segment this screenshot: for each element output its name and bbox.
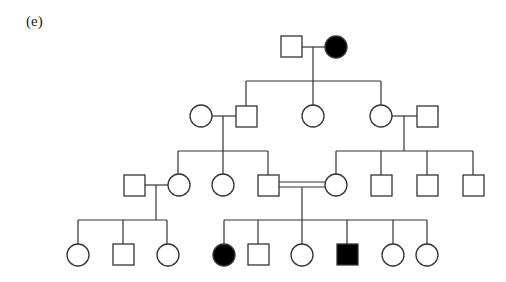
female-unaffected-II-4 <box>370 105 392 127</box>
male-affected-IV-7 <box>337 244 358 265</box>
pedigree-chart <box>0 0 506 282</box>
female-unaffected-III-2 <box>168 174 190 196</box>
female-unaffected-IV-1 <box>67 244 89 266</box>
pedigree-lines <box>78 47 473 244</box>
male-unaffected-III-4 <box>258 175 279 196</box>
generation-IV <box>67 244 438 266</box>
female-unaffected-II-3 <box>302 105 324 127</box>
female-affected-IV-4 <box>213 244 235 266</box>
female-unaffected-IV-3 <box>157 244 179 266</box>
male-unaffected-III-6 <box>371 175 392 196</box>
male-unaffected-IV-2 <box>113 244 134 265</box>
male-unaffected-III-8 <box>463 175 484 196</box>
male-unaffected-III-1 <box>124 175 145 196</box>
male-unaffected-IV-5 <box>248 244 269 265</box>
female-unaffected-III-3 <box>212 174 234 196</box>
female-unaffected-IV-9 <box>416 244 438 266</box>
male-unaffected-II-2 <box>236 106 257 127</box>
pedigree-figure: (e) <box>0 0 506 282</box>
female-affected-I-2 <box>325 36 347 58</box>
male-unaffected-I-1 <box>281 36 302 57</box>
male-unaffected-II-5 <box>417 106 438 127</box>
female-unaffected-IV-6 <box>291 244 313 266</box>
female-unaffected-IV-8 <box>382 244 404 266</box>
male-unaffected-III-7 <box>417 175 438 196</box>
female-unaffected-II-1 <box>190 105 212 127</box>
female-unaffected-III-5 <box>325 174 347 196</box>
generation-III <box>124 174 484 196</box>
